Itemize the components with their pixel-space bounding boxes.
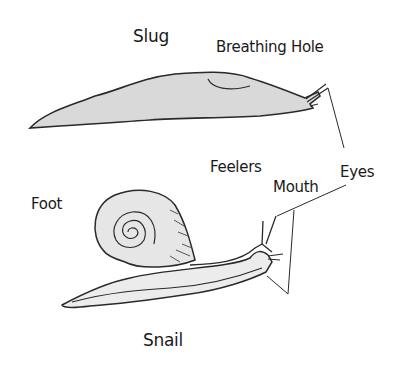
slug-drawing xyxy=(30,72,328,128)
eyes-leader-slug xyxy=(328,88,344,148)
snail-drawing xyxy=(62,190,283,307)
label-snail: Snail xyxy=(143,330,183,350)
snail-feelers xyxy=(262,216,276,245)
slug-snail-illustration xyxy=(0,0,394,371)
label-eyes: Eyes xyxy=(340,163,374,181)
slug-body xyxy=(30,72,320,128)
label-slug: Slug xyxy=(133,26,169,46)
label-breathing-hole: Breathing Hole xyxy=(216,38,324,56)
label-feelers: Feelers xyxy=(210,158,262,176)
label-mouth: Mouth xyxy=(273,178,319,196)
label-foot: Foot xyxy=(31,195,62,213)
